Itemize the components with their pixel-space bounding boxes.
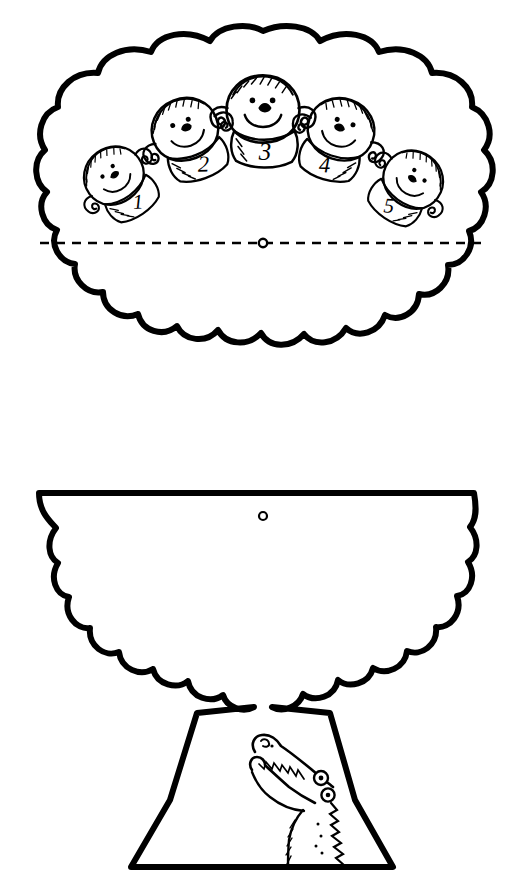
monkey-1-number: 1 [132,189,144,213]
crocodile-pupil-lower [326,793,331,798]
top-punch-hole-icon[interactable] [259,239,267,247]
crocodile-skin-dot [317,823,320,826]
crocodile-skin-dot [320,835,323,838]
template-artboard: 1 [0,0,510,890]
crocodile-pupil-upper [319,776,324,781]
crocodile-skin-dot [315,845,318,848]
bottom-punch-hole-icon[interactable] [259,512,267,520]
crocodile-nostril-dot [270,744,273,747]
monkey-5-number: 5 [383,193,395,217]
craft-template-sheet: 1 [0,0,510,890]
crocodile-skin-dot [321,852,324,855]
